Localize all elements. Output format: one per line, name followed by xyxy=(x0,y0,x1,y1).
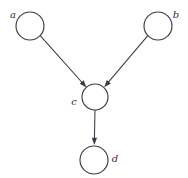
graph-canvas: abcd xyxy=(0,0,188,178)
node-b[interactable] xyxy=(144,12,172,40)
edge-line xyxy=(40,36,82,83)
node-a[interactable] xyxy=(16,12,44,40)
node-c[interactable] xyxy=(82,84,108,110)
arrow-head xyxy=(92,138,97,145)
edge-line xyxy=(94,110,95,139)
node-label-a: a xyxy=(10,9,16,20)
edge-b-to-c[interactable] xyxy=(104,36,148,88)
nodes-group xyxy=(16,12,172,174)
node-label-c: c xyxy=(71,96,77,107)
edge-c-to-d[interactable] xyxy=(92,110,97,145)
graph-figure: abcd xyxy=(0,0,188,178)
node-d[interactable] xyxy=(80,146,108,174)
edge-a-to-c[interactable] xyxy=(40,36,86,88)
node-label-b: b xyxy=(173,9,179,20)
node-label-d: d xyxy=(112,153,118,164)
edge-line xyxy=(108,36,148,83)
